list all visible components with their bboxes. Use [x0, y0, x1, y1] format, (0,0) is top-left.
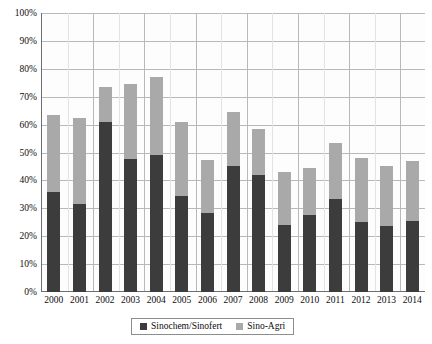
bars-layer: [41, 13, 425, 292]
bar-segment-sino-agri: [329, 143, 342, 199]
bar-segment-sino-agri: [47, 115, 60, 192]
bar: [227, 112, 240, 292]
bar: [380, 166, 393, 292]
bar: [175, 122, 188, 292]
y-axis-tick-label: 40%: [0, 175, 37, 185]
legend-item: Sinochem/Sinofert: [140, 321, 222, 331]
bar-segment-sino-agri: [201, 160, 214, 213]
bar-segment-sino-agri: [252, 129, 265, 175]
bar-segment-sino-agri: [150, 77, 163, 155]
bar-segment-sino-agri: [303, 168, 316, 215]
bar-segment-sino-agri: [175, 122, 188, 196]
y-axis-tick-label: 20%: [0, 231, 37, 241]
stacked-bar-chart: 0%10%20%30%40%50%60%70%80%90%100% 200020…: [0, 0, 432, 344]
bar-segment-sino-agri: [278, 172, 291, 225]
bar: [99, 87, 112, 292]
y-axis-tick-label: 100%: [0, 8, 37, 18]
bar-segment-sinochem-sinofert: [355, 222, 368, 292]
y-axis-tick-label: 70%: [0, 92, 37, 102]
bar-segment-sino-agri: [73, 118, 86, 204]
y-axis-tick-label: 30%: [0, 203, 37, 213]
bar: [150, 77, 163, 292]
bar: [355, 158, 368, 292]
y-axis-tick-label: 80%: [0, 64, 37, 74]
bar-segment-sinochem-sinofert: [380, 226, 393, 292]
bar: [124, 84, 137, 292]
bar-segment-sinochem-sinofert: [227, 166, 240, 292]
bar: [252, 129, 265, 292]
bar-segment-sino-agri: [406, 161, 419, 221]
y-axis-tick-label: 0%: [0, 287, 37, 297]
y-axis-tick-label: 10%: [0, 259, 37, 269]
bar-segment-sino-agri: [227, 112, 240, 166]
bar: [201, 160, 214, 293]
bar-segment-sinochem-sinofert: [150, 155, 163, 292]
bar: [406, 161, 419, 292]
legend-swatch-icon: [236, 323, 243, 330]
bar-segment-sinochem-sinofert: [175, 196, 188, 292]
bar-segment-sinochem-sinofert: [303, 215, 316, 292]
bar-segment-sino-agri: [124, 84, 137, 159]
bar: [47, 115, 60, 292]
bar-segment-sinochem-sinofert: [124, 159, 137, 292]
legend-label: Sinochem/Sinofert: [151, 321, 222, 331]
y-axis-tick-label: 90%: [0, 36, 37, 46]
y-axis-tick-label: 50%: [0, 148, 37, 158]
bar-segment-sino-agri: [355, 158, 368, 222]
bar-segment-sinochem-sinofert: [99, 122, 112, 292]
bar-segment-sinochem-sinofert: [278, 225, 291, 292]
y-axis-tick-label: 60%: [0, 120, 37, 130]
bar-segment-sinochem-sinofert: [329, 199, 342, 292]
bar-segment-sinochem-sinofert: [406, 221, 419, 292]
bar-segment-sinochem-sinofert: [73, 204, 86, 292]
legend-swatch-icon: [140, 323, 147, 330]
x-axis-tick-label: 2014: [392, 295, 432, 305]
bar-segment-sino-agri: [380, 166, 393, 226]
bar-segment-sinochem-sinofert: [252, 175, 265, 292]
bar-segment-sinochem-sinofert: [47, 192, 60, 292]
legend-item: Sino-Agri: [236, 321, 285, 331]
bar: [329, 143, 342, 292]
chart-legend: Sinochem/SinofertSino-Agri: [131, 318, 294, 335]
bar-segment-sinochem-sinofert: [201, 213, 214, 293]
bar: [278, 172, 291, 292]
bar-segment-sino-agri: [99, 87, 112, 122]
legend-label: Sino-Agri: [247, 321, 285, 331]
bar: [303, 168, 316, 292]
bar: [73, 118, 86, 292]
